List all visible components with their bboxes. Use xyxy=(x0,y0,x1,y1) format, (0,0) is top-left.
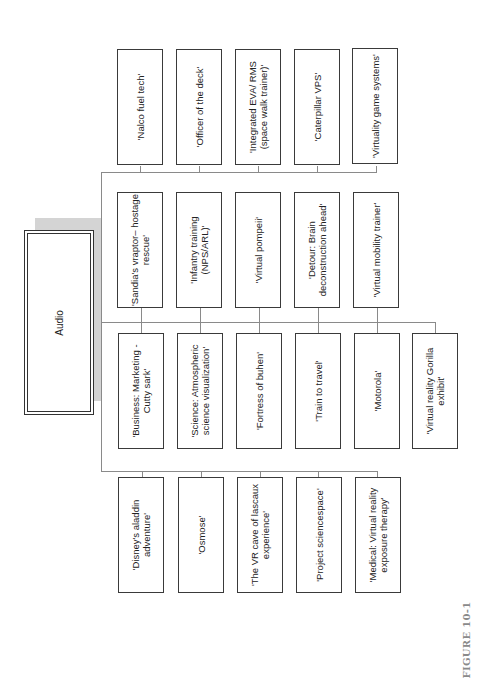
stub xyxy=(141,322,142,333)
stub xyxy=(259,322,260,333)
node: 'Integrated EVA/ RMS (space walk trainer… xyxy=(235,49,281,165)
node-label: 'Virtual reality Gorilla exhibit' xyxy=(424,335,446,447)
stub xyxy=(318,308,319,322)
node: 'Motorola' xyxy=(354,333,400,449)
stub xyxy=(377,308,378,322)
stub xyxy=(258,166,259,172)
node: 'Virtual pompeii' xyxy=(235,192,281,308)
node: 'Fortress of buhen' xyxy=(236,333,282,449)
node-label: 'Detour: Brain deconstruction ahead' xyxy=(306,194,328,306)
node-label: 'Integrated EVA/ RMS (space walk trainer… xyxy=(247,51,269,163)
node: 'Train to travel' xyxy=(295,333,341,449)
branch-line-middle xyxy=(101,322,436,323)
stub xyxy=(377,322,378,333)
node-label: 'Motorola' xyxy=(372,335,383,447)
stub xyxy=(318,322,319,333)
node-label: 'Fortress of buhen' xyxy=(254,335,265,447)
node: 'Detour: Brain deconstruction ahead' xyxy=(294,192,340,308)
node: 'Virtual reality Gorilla exhibit' xyxy=(412,333,458,449)
figure-caption: FIGURE 10-1 xyxy=(461,602,472,678)
node: 'Project sciencespace' xyxy=(296,477,342,593)
node-label: 'Disney's aladdin adventure' xyxy=(130,479,152,591)
stub xyxy=(259,308,260,322)
node-label: 'The VR cave of lascaux experience' xyxy=(249,479,271,591)
root-node-audio: Audio xyxy=(24,230,94,415)
node: 'Virtual mobility trainer' xyxy=(353,192,399,308)
node-label: 'Train to travel' xyxy=(313,335,324,447)
node-label: 'Sandia's vraptor– hostage rescue' xyxy=(129,194,151,306)
stub xyxy=(199,166,200,172)
node-label: 'Nalco fuel tech' xyxy=(135,51,146,163)
root-node-label: Audio xyxy=(54,310,65,336)
node: 'Virtuality game systems' xyxy=(352,48,398,164)
node-label: 'Osmose' xyxy=(196,479,207,591)
branch-line-top xyxy=(101,172,377,173)
node-label: 'Virtual pompeii' xyxy=(253,194,264,306)
node: 'Nalco fuel tech' xyxy=(117,49,163,165)
node-label: 'Science: Atmospheric science visualizat… xyxy=(189,335,211,447)
stub xyxy=(200,308,201,322)
node: 'Officer of the deck' xyxy=(176,49,222,165)
node-label: 'Infantry training (NPS/ARL)' xyxy=(188,194,210,306)
node: 'Sandia's vraptor– hostage rescue' xyxy=(117,192,163,308)
stub xyxy=(140,166,141,172)
node: 'Osmose' xyxy=(178,477,224,593)
node-label: 'Medical: Virtual reality exposure thera… xyxy=(367,479,389,591)
node: 'Medical: Virtual reality exposure thera… xyxy=(355,477,401,593)
node: 'Disney's aladdin adventure' xyxy=(118,477,164,593)
node-label: 'Caterpillar VPS' xyxy=(312,51,323,163)
stub xyxy=(200,322,201,333)
stub xyxy=(317,166,318,172)
node: 'Business: Marketing -Cutty sark' xyxy=(118,333,164,449)
node-label: 'Virtual mobility trainer' xyxy=(371,194,382,306)
node: 'Science: Atmospheric science visualizat… xyxy=(177,333,223,449)
node: 'Caterpillar VPS' xyxy=(294,49,340,165)
node-label: 'Virtuality game systems' xyxy=(370,50,381,162)
node-label: 'Project sciencespace' xyxy=(314,479,325,591)
node: 'Infantry training (NPS/ARL)' xyxy=(176,192,222,308)
node-label: 'Business: Marketing -Cutty sark' xyxy=(130,335,152,447)
node: 'The VR cave of lascaux experience' xyxy=(237,477,283,593)
node-label: 'Officer of the deck' xyxy=(194,51,205,163)
stub xyxy=(435,322,436,333)
stub xyxy=(376,166,377,172)
stub xyxy=(141,308,142,322)
